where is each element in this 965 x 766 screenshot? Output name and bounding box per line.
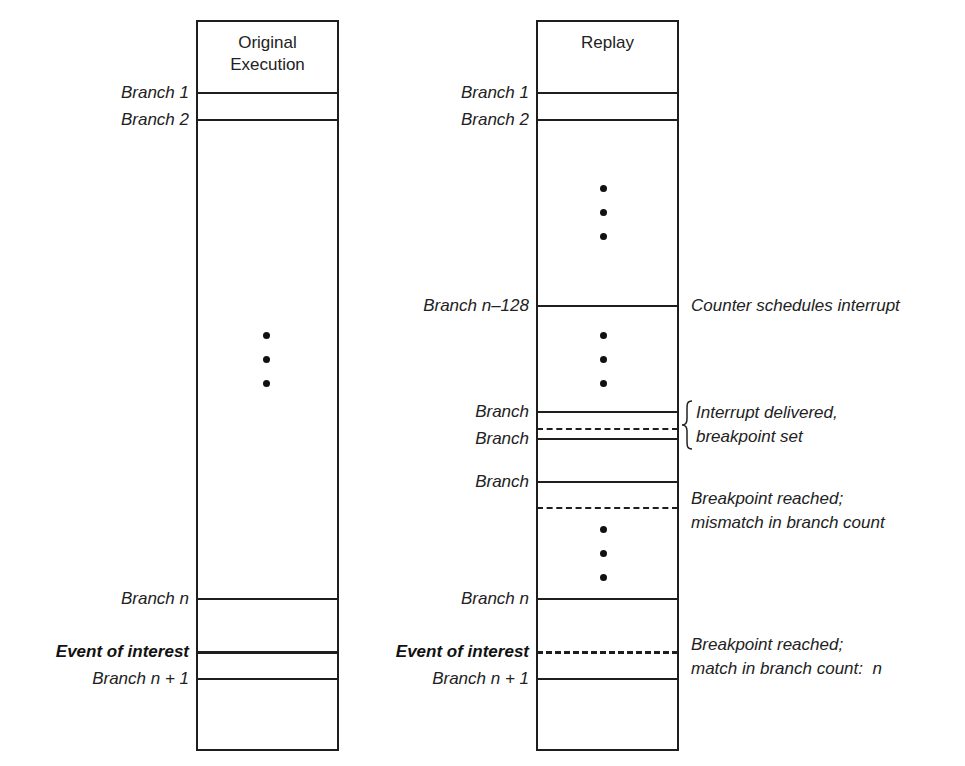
replay-column: Replay [536, 20, 679, 751]
curly-brace-icon [680, 400, 694, 450]
original-branch-1-line [197, 92, 338, 94]
replay-branch-n-128-label: Branch n–128 [423, 296, 529, 316]
ellipsis-dot [263, 356, 270, 363]
replay-branch-1-line [537, 92, 678, 94]
annotation-interrupt-delivered: Interrupt delivered, breakpoint set [696, 401, 838, 449]
original-event-of-interest-line [197, 651, 338, 654]
original-branch-2-label: Branch 2 [121, 110, 189, 130]
annotation-interrupt-line-2: breakpoint set [696, 425, 838, 449]
annotation-interrupt-line-1: Interrupt delivered, [696, 401, 838, 425]
replay-branch-n-plus-1-line [537, 678, 678, 680]
replay-branch-2-line [537, 119, 678, 121]
ellipsis-dot [600, 356, 607, 363]
annotation-counter-schedules-interrupt: Counter schedules interrupt [691, 294, 900, 318]
replay-branch-n-128-line [537, 305, 678, 307]
annotation-breakpoint-mismatch: Breakpoint reached; mismatch in branch c… [691, 487, 885, 535]
replay-interrupt-dashed-line [537, 428, 678, 430]
original-branch-n-plus-1-line [197, 678, 338, 680]
replay-branch-n-label: Branch n [461, 589, 529, 609]
ellipsis-dot [600, 550, 607, 557]
replay-mismatch-breakpoint-line [537, 507, 678, 509]
original-title-line-1: Original [198, 32, 337, 54]
replay-branch-a-line [537, 411, 678, 413]
ellipsis-dot [600, 233, 607, 240]
replay-branch-1-label: Branch 1 [461, 83, 529, 103]
original-event-of-interest-label: Event of interest [56, 642, 189, 662]
annotation-breakpoint-match: Breakpoint reached; match in branch coun… [691, 633, 882, 681]
annotation-match-line-1: Breakpoint reached; [691, 633, 882, 657]
annotation-mismatch-line-2: mismatch in branch count [691, 511, 885, 535]
ellipsis-dot [600, 185, 607, 192]
original-branch-n-plus-1-label: Branch n + 1 [92, 669, 189, 689]
original-branch-1-label: Branch 1 [121, 83, 189, 103]
annotation-match-line-2: match in branch count: n [691, 657, 882, 681]
replay-branch-b-line [537, 438, 678, 440]
replay-branch-2-label: Branch 2 [461, 110, 529, 130]
replay-branch-a-label: Branch [475, 402, 529, 422]
replay-branch-c-label: Branch [475, 472, 529, 492]
original-branch-2-line [197, 119, 338, 121]
replay-branch-n-plus-1-label: Branch n + 1 [432, 669, 529, 689]
ellipsis-dot [600, 380, 607, 387]
replay-event-of-interest-line [537, 651, 678, 654]
replay-title: Replay [538, 32, 677, 54]
original-execution-title: Original Execution [198, 32, 337, 76]
replay-event-of-interest-label: Event of interest [396, 642, 529, 662]
replay-branch-n-line [537, 598, 678, 600]
ellipsis-dot [600, 332, 607, 339]
ellipsis-dot [600, 209, 607, 216]
ellipsis-dot [263, 380, 270, 387]
replay-branch-c-line [537, 481, 678, 483]
annotation-mismatch-line-1: Breakpoint reached; [691, 487, 885, 511]
ellipsis-dot [263, 332, 270, 339]
original-title-line-2: Execution [198, 54, 337, 76]
ellipsis-dot [600, 574, 607, 581]
original-branch-n-label: Branch n [121, 589, 189, 609]
ellipsis-dot [600, 526, 607, 533]
original-branch-n-line [197, 598, 338, 600]
replay-branch-b-label: Branch [475, 429, 529, 449]
